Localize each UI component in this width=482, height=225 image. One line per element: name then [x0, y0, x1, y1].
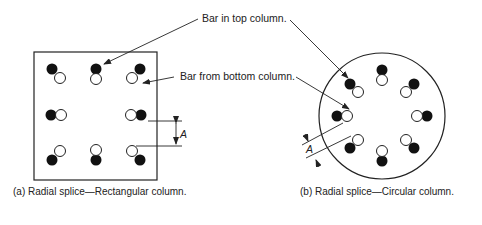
bar-pair-circ-s — [377, 146, 388, 167]
bar-pair-rect-br — [127, 146, 146, 166]
bar-pair-rect-tr — [127, 64, 146, 84]
circular-column — [302, 53, 445, 179]
label-bar-top-column: Bar in top column. — [202, 12, 287, 24]
bar-pair-rect-bl — [47, 146, 66, 166]
bar-pair-circ-e — [412, 111, 433, 122]
bar-pair-circ-n — [377, 65, 388, 86]
dimension-label-a-circ: A — [306, 143, 313, 155]
bar-pair-circ-se — [401, 135, 420, 154]
bar-pair-rect-tl — [47, 64, 66, 84]
bar-pair-circ-ne — [401, 79, 420, 98]
bar-pair-rect-tm — [91, 64, 102, 85]
label-bar-bottom-column: Bar from bottom column. — [180, 70, 295, 82]
dimension-a-rect — [136, 121, 182, 146]
caption-b: (b) Radial splice—Circular column. — [300, 186, 454, 197]
bar-pair-rect-bm — [91, 145, 102, 166]
caption-a: (a) Radial splice—Rectangular column. — [13, 186, 186, 197]
bar-pair-rect-ml — [46, 110, 67, 121]
dimension-label-a-rect: A — [180, 128, 187, 140]
bar-pair-rect-mr — [126, 110, 147, 121]
bar-pair-circ-nw — [345, 79, 364, 98]
bar-pair-circ-w — [332, 111, 353, 122]
rectangular-column — [34, 52, 182, 180]
